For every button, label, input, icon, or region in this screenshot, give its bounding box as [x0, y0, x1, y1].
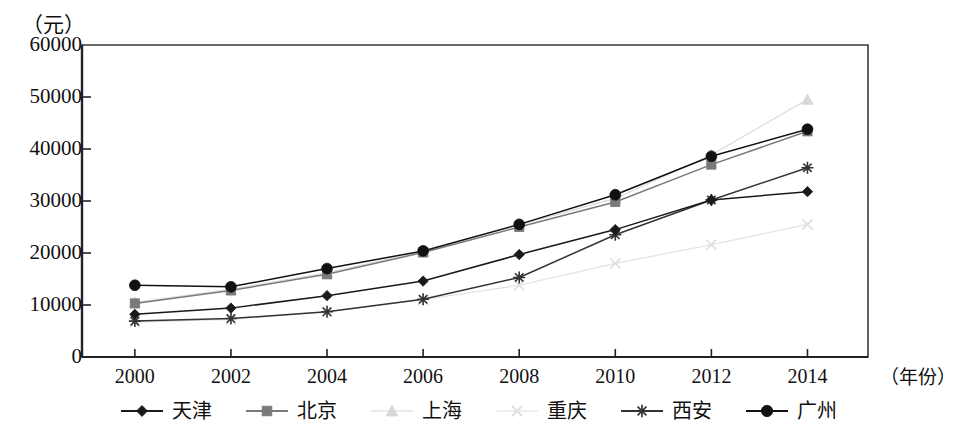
series-point-广州	[802, 124, 813, 135]
legend-item-西安[interactable]: 西安	[619, 401, 712, 421]
series-point-天津	[322, 290, 332, 300]
series-point-广州	[322, 263, 333, 274]
legend-label: 上海	[422, 401, 462, 421]
series-point-广州	[129, 280, 140, 291]
series-point-北京	[130, 299, 139, 308]
data-point-marker	[636, 405, 649, 418]
diamond-marker-icon	[119, 402, 165, 420]
chart-legend: 天津北京上海重庆西安广州	[0, 398, 956, 424]
series-point-重庆	[802, 219, 812, 229]
series-point-天津	[802, 186, 812, 196]
legend-item-重庆[interactable]: 重庆	[494, 401, 587, 421]
data-point-marker	[262, 406, 272, 416]
legend-label: 重庆	[547, 401, 587, 421]
series-line-天津	[135, 192, 808, 315]
chart-plot-area	[0, 0, 956, 424]
series-point-重庆	[610, 258, 620, 268]
legend-label: 西安	[672, 401, 712, 421]
series-point-广州	[418, 246, 429, 257]
series-point-西安	[513, 271, 525, 283]
series-point-广州	[226, 281, 237, 292]
triangle-marker-icon	[369, 402, 415, 420]
series-point-广州	[514, 219, 525, 230]
legend-label: 广州	[797, 401, 837, 421]
circle-marker-icon	[744, 402, 790, 420]
legend-label: 天津	[172, 401, 212, 421]
square-marker-icon	[244, 402, 290, 420]
legend-item-上海[interactable]: 上海	[369, 401, 462, 421]
series-line-西安	[135, 168, 808, 321]
series-point-广州	[706, 151, 717, 162]
legend-label: 北京	[297, 401, 337, 421]
data-point-marker	[137, 406, 148, 417]
series-point-上海	[802, 94, 813, 104]
data-point-marker	[761, 405, 772, 416]
series-point-重庆	[706, 240, 716, 250]
series-point-天津	[226, 303, 236, 313]
series-point-天津	[418, 276, 428, 286]
series-line-广州	[135, 129, 808, 287]
series-point-广州	[610, 189, 621, 200]
asterisk-marker-icon	[619, 402, 665, 420]
legend-item-天津[interactable]: 天津	[119, 401, 212, 421]
x-marker-icon	[494, 402, 540, 420]
chart-root: （元） （年份） 0100002000030000400005000060000…	[0, 0, 956, 424]
series-point-天津	[514, 249, 524, 259]
legend-item-广州[interactable]: 广州	[744, 401, 837, 421]
series-point-西安	[801, 162, 813, 174]
legend-item-北京[interactable]: 北京	[244, 401, 337, 421]
